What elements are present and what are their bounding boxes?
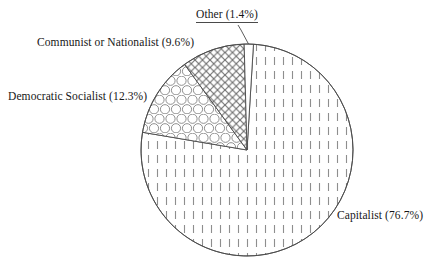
pie-chart-figure: Other (1.4%) Communist or Nationalist (9… — [0, 0, 432, 265]
slice-label-other: Other (1.4%) — [196, 8, 258, 23]
other-leader-line — [238, 25, 249, 44]
slice-label-democratic-socialist: Democratic Socialist (12.3%) — [8, 90, 147, 103]
slice-label-capitalist: Capitalist (76.7%) — [337, 209, 423, 222]
slice-label-communist-or-nationalist: Communist or Nationalist (9.6%) — [37, 36, 194, 49]
